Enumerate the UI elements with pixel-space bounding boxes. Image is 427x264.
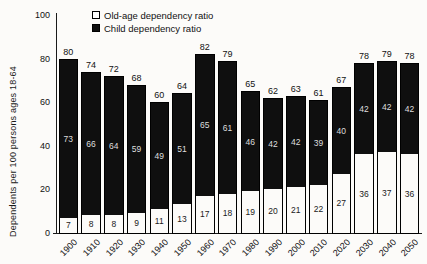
y-tick-label-0: 0 [12,228,50,238]
bar-1990: 4220 [263,98,283,234]
old-age-value-2050: 36 [405,189,414,199]
child-segment-2020: 40 [333,88,351,174]
old-age-value-1970: 18 [223,208,232,218]
child-segment-2000: 42 [287,97,305,187]
old-age-value-2020: 27 [337,198,346,208]
old-age-segment-2040: 37 [378,152,396,233]
total-label-1970: 79 [212,49,244,59]
x-tick-text-2050: 2050 [399,237,420,258]
child-value-2020: 40 [337,126,346,136]
old-age-segment-1900: 7 [60,218,78,233]
total-label-1940: 60 [144,90,176,100]
child-value-2000: 42 [291,137,300,147]
child-value-2040: 42 [382,102,391,112]
old-age-value-1910: 8 [89,219,94,229]
child-segment-2010: 39 [310,101,328,185]
child-segment-1950: 51 [173,94,191,204]
old-age-segment-1940: 11 [151,209,169,233]
old-age-segment-1920: 8 [105,215,123,233]
legend-label-old-age: Old-age dependency ratio [104,10,213,21]
y-tick-label-100: 100 [12,10,50,20]
child-segment-2040: 42 [378,62,396,152]
total-label-2010: 61 [303,88,335,98]
bar-1940: 4911 [150,102,170,234]
legend-item-old-age: Old-age dependency ratio [92,9,213,21]
child-value-1910: 66 [86,139,95,149]
x-tick-text-1940: 1940 [149,237,170,258]
x-tick-text-1970: 1970 [217,237,238,258]
child-value-2030: 42 [359,104,368,114]
old-age-value-2010: 22 [314,204,323,214]
total-label-1900: 80 [53,47,85,57]
y-tick-label-20: 20 [12,184,50,194]
bar-1930: 599 [127,85,147,234]
child-value-1960: 65 [200,120,209,130]
total-label-2050: 78 [394,51,426,61]
old-age-value-1940: 11 [155,216,164,226]
bar-2020: 4027 [332,87,352,234]
child-value-1950: 51 [177,144,186,154]
child-value-1980: 46 [246,137,255,147]
total-label-2020: 67 [326,75,358,85]
old-age-segment-1990: 20 [264,189,282,233]
old-age-segment-1930: 9 [128,213,146,233]
y-tick-label-80: 80 [12,54,50,64]
x-tick-text-2040: 2040 [377,237,398,258]
old-age-value-1930: 9 [134,218,139,228]
child-value-1940: 49 [155,151,164,161]
child-segment-1920: 64 [105,77,123,215]
bar-1960: 6517 [195,54,215,234]
y-tick-label-60: 60 [12,97,50,107]
x-tick-text-2000: 2000 [286,237,307,258]
old-age-segment-1970: 18 [219,194,237,233]
old-age-segment-1950: 13 [173,204,191,233]
old-age-value-1920: 8 [111,219,116,229]
y-tick-label-40: 40 [12,141,50,151]
total-label-1930: 68 [121,73,153,83]
child-segment-1940: 49 [151,103,169,209]
x-tick-text-2020: 2020 [331,237,352,258]
old-age-value-1960: 17 [200,209,209,219]
y-axis-title: Dependents per 100 persons ages 18-64 [8,66,18,237]
old-age-segment-2000: 21 [287,187,305,233]
child-value-1930: 59 [132,144,141,154]
child-segment-1910: 66 [82,73,100,216]
dependency-ratio-chart: Dependents per 100 persons ages 18-64 Ol… [0,0,427,264]
bar-1900: 737 [59,59,79,234]
old-age-swatch-icon [92,11,100,19]
child-value-1900: 73 [64,134,73,144]
x-tick-text-2030: 2030 [354,237,375,258]
x-tick-text-1920: 1920 [104,237,125,258]
child-value-1970: 61 [223,123,232,133]
x-tick-text-1960: 1960 [195,237,216,258]
child-segment-1990: 42 [264,99,282,189]
child-segment-1930: 59 [128,86,146,213]
total-label-1950: 64 [166,81,198,91]
bar-1980: 4619 [241,91,261,234]
child-segment-1960: 65 [196,55,214,196]
child-segment-2050: 42 [401,64,419,154]
old-age-segment-2030: 36 [355,154,373,233]
old-age-value-1990: 20 [268,206,277,216]
old-age-value-1900: 7 [66,220,71,230]
bar-1920: 648 [104,76,124,234]
x-tick-text-1900: 1900 [58,237,79,258]
x-tick-text-1990: 1990 [263,237,284,258]
bar-2040: 4237 [377,61,397,234]
old-age-segment-1960: 17 [196,196,214,233]
legend-item-child: Child dependency ratio [92,22,213,34]
child-value-1920: 64 [109,141,118,151]
old-age-segment-1980: 19 [242,191,260,233]
old-age-segment-2050: 36 [401,154,419,233]
x-tick-text-1930: 1930 [126,237,147,258]
child-segment-1900: 73 [60,60,78,218]
legend-label-child: Child dependency ratio [104,23,201,34]
bar-1910: 668 [81,72,101,234]
x-tick-text-1910: 1910 [81,237,102,258]
bar-1950: 5113 [172,93,192,234]
child-value-1990: 42 [268,139,277,149]
old-age-segment-2010: 22 [310,185,328,233]
bar-2010: 3922 [309,100,329,234]
old-age-segment-2020: 27 [333,174,351,233]
child-value-2010: 39 [314,138,323,148]
